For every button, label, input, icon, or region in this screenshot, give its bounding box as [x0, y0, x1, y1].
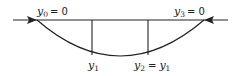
bed-curve: [37, 20, 204, 56]
label-y1: y1: [87, 59, 99, 73]
label-y0: y0= 0: [36, 5, 68, 19]
channel-diagram: y0= 0 y3= 0 y1 y2=y1: [0, 0, 240, 76]
label-y3: y3= 0: [173, 5, 205, 19]
label-y2-equals-y1: y2=y1: [133, 59, 170, 73]
